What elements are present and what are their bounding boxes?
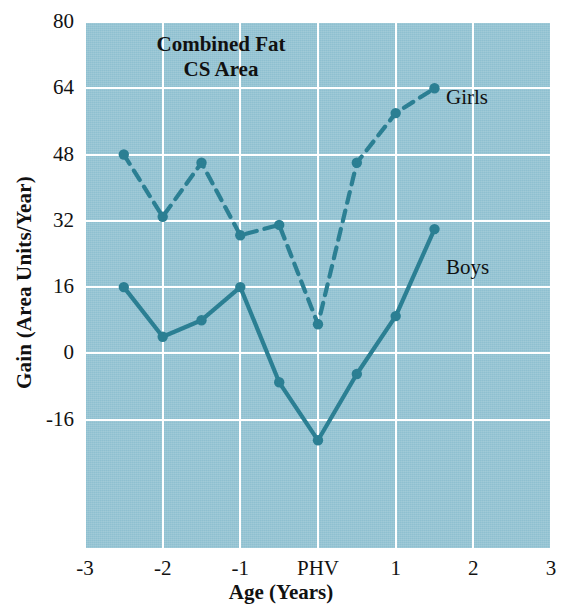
data-point-girls	[352, 158, 362, 168]
data-point-girls	[429, 83, 439, 93]
data-point-boys	[196, 315, 206, 325]
data-point-boys	[352, 369, 362, 379]
series-label-girls: Girls	[446, 85, 488, 110]
y-tick-label: 80	[8, 11, 74, 32]
data-point-boys	[391, 311, 401, 321]
x-tick-label: 2	[433, 558, 513, 579]
x-tick-label: PHV	[278, 558, 358, 579]
x-tick-label: -2	[123, 558, 203, 579]
x-axis-label: Age (Years)	[0, 580, 562, 605]
data-point-boys	[313, 435, 323, 445]
series-line-boys	[124, 229, 435, 440]
data-point-boys	[274, 377, 284, 387]
data-point-girls	[119, 149, 129, 159]
x-tick-label: 3	[511, 558, 562, 579]
x-tick-label: -1	[200, 558, 280, 579]
series-line-girls	[124, 88, 435, 324]
plot-title: Combined Fat CS Area	[96, 32, 346, 82]
y-axis-label: Gain (Area Units/Year)	[12, 93, 37, 473]
data-point-girls	[391, 108, 401, 118]
plot-title-line-1: Combined Fat	[96, 32, 346, 57]
data-point-girls	[158, 212, 168, 222]
x-tick-label: -3	[45, 558, 125, 579]
data-point-girls	[274, 220, 284, 230]
data-point-boys	[235, 282, 245, 292]
x-tick-label: 1	[356, 558, 436, 579]
data-point-girls	[235, 230, 245, 240]
data-point-boys	[429, 224, 439, 234]
data-point-boys	[158, 332, 168, 342]
series-label-boys: Boys	[446, 255, 489, 280]
data-point-girls	[313, 319, 323, 329]
data-point-boys	[119, 282, 129, 292]
chart-figure: -1601632486480 -3-2-1PHV123 Combined Fat…	[0, 0, 562, 607]
plot-title-line-2: CS Area	[96, 57, 346, 82]
data-point-girls	[196, 158, 206, 168]
